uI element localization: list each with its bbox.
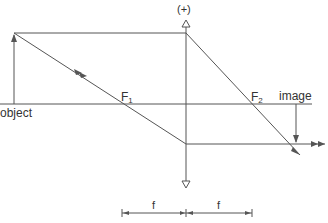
scale-arrowhead-icon	[123, 211, 129, 215]
scale-arrowhead-icon	[180, 211, 185, 215]
f2-sub: 2	[258, 96, 262, 105]
lens-sign-label: (+)	[177, 4, 191, 15]
ray-diagram	[0, 0, 328, 223]
object-label: object	[0, 107, 32, 119]
ray-arrowhead-icon	[79, 72, 87, 78]
image-label: image	[279, 90, 312, 102]
lens-bottom-arrow-icon	[182, 181, 190, 188]
focal-point-f2-label: F2	[251, 91, 263, 105]
ray-arrowhead-icon	[318, 141, 325, 147]
ray-arrowhead-icon	[311, 141, 318, 147]
scale-arrowhead-icon	[187, 211, 193, 215]
f1-sub: 1	[128, 96, 132, 105]
scale-arrowhead-icon	[245, 211, 251, 215]
scale-f-label-2: f	[217, 200, 220, 211]
ray-arrowhead-icon	[291, 147, 300, 155]
focal-point-f1-label: F1	[121, 91, 133, 105]
lens-top-arrow-icon	[182, 20, 190, 27]
scale-f-label-1: f	[152, 200, 155, 211]
